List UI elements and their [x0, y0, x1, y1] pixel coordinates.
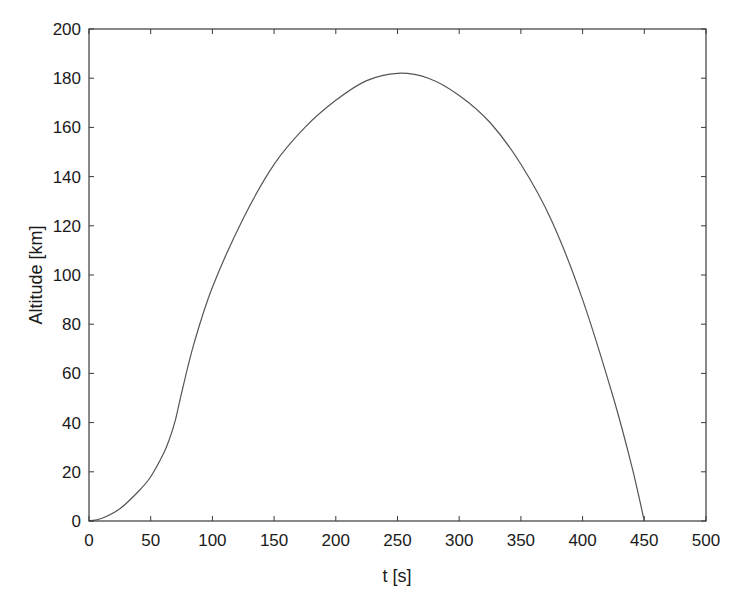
- x-axis-label: t [s]: [382, 566, 411, 586]
- y-tick-label: 200: [53, 20, 81, 39]
- x-tick-label: 200: [322, 531, 350, 550]
- y-tick-label: 140: [53, 168, 81, 187]
- x-tick-label: 100: [198, 531, 226, 550]
- chart-canvas: 050100150200250300350400450500 020406080…: [0, 0, 739, 609]
- altitude-chart: 050100150200250300350400450500 020406080…: [0, 0, 739, 609]
- x-axis-tick-labels: 050100150200250300350400450500: [84, 531, 720, 550]
- altitude-curve: [89, 73, 644, 521]
- x-tick-label: 0: [84, 531, 93, 550]
- y-axis-label: Altitude [km]: [26, 225, 46, 324]
- x-tick-label: 450: [630, 531, 658, 550]
- y-tick-label: 100: [53, 266, 81, 285]
- x-tick-label: 250: [383, 531, 411, 550]
- y-tick-label: 160: [53, 118, 81, 137]
- y-tick-label: 40: [62, 414, 81, 433]
- y-tick-label: 20: [62, 463, 81, 482]
- x-tick-label: 150: [260, 531, 288, 550]
- y-tick-label: 80: [62, 315, 81, 334]
- x-tick-label: 400: [568, 531, 596, 550]
- y-tick-label: 60: [62, 364, 81, 383]
- y-axis-tick-labels: 020406080100120140160180200: [53, 20, 81, 531]
- y-tick-label: 0: [72, 512, 81, 531]
- y-tick-label: 120: [53, 217, 81, 236]
- x-tick-label: 300: [445, 531, 473, 550]
- x-tick-label: 350: [507, 531, 535, 550]
- x-tick-label: 500: [692, 531, 720, 550]
- x-tick-label: 50: [141, 531, 160, 550]
- y-tick-label: 180: [53, 69, 81, 88]
- plot-area-frame: [89, 29, 706, 521]
- axis-ticks: [89, 29, 706, 521]
